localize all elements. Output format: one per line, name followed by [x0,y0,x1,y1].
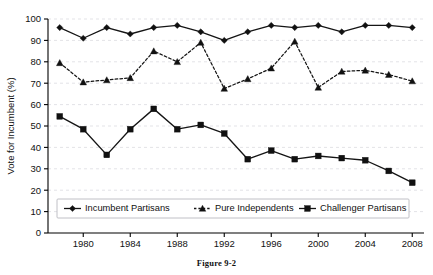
x-tick-label: 2004 [355,238,376,249]
data-point-diamond [174,22,180,28]
x-tick-label: 1980 [73,238,94,249]
x-tick-label: 1996 [261,238,282,249]
data-point-diamond [127,31,133,37]
data-point-diamond [268,22,274,28]
data-point-square [127,126,133,132]
data-point-diamond [292,24,298,30]
y-tick-label: 80 [30,56,41,67]
data-point-square [409,180,415,186]
line-chart: 0102030405060708090100 19801984198819921… [0,0,433,275]
data-point-triangle [221,85,228,91]
data-point-square [174,126,180,132]
legend-item-label: Challenger Partisans [320,203,407,213]
y-tick-label: 50 [30,120,41,131]
data-point-square [339,155,345,161]
x-tick-label: 2000 [308,238,329,249]
y-tick-label: 70 [30,78,41,89]
series-group [56,22,415,185]
legend-item-label: Pure Independents [215,203,294,213]
x-tick-label: 1992 [214,238,235,249]
data-point-triangle [244,76,251,82]
gridlines-group [48,19,424,212]
x-tick-label: 1984 [120,238,141,249]
data-point-diamond [315,22,321,28]
data-point-diamond [245,29,251,35]
y-tick-label: 60 [30,99,41,110]
data-point-diamond [198,29,204,35]
data-point-diamond [221,37,227,43]
data-point-square [57,113,63,119]
data-point-diamond [386,22,392,28]
data-point-diamond [409,24,415,30]
series-line [60,41,413,88]
series-challenger-partisans [57,106,415,186]
y-tick-label: 90 [30,35,41,46]
data-point-square [198,122,204,128]
data-point-diamond [339,29,345,35]
data-point-square [292,156,298,162]
series-line [60,25,413,40]
data-point-triangle [315,84,322,90]
data-point-triangle [291,38,298,44]
y-tick-group: 0102030405060708090100 [25,13,48,238]
y-tick-label: 20 [30,185,41,196]
legend-item-label: Incumbent Partisans [85,203,170,213]
data-point-triangle [56,60,63,66]
y-tick-label: 10 [30,206,41,217]
y-tick-label: 40 [30,142,41,153]
data-point-square [151,106,157,112]
data-point-diamond [151,24,157,30]
legend-swatch-marker [305,206,311,212]
y-tick-label: 30 [30,163,41,174]
data-point-diamond [104,24,110,30]
data-point-square [245,156,251,162]
data-point-square [362,157,368,163]
data-point-square [268,148,274,154]
data-point-diamond [362,22,368,28]
y-tick-label: 0 [36,227,41,238]
y-tick-label: 100 [25,13,41,24]
data-point-square [80,126,86,132]
x-tick-group: 19801984198819921996200020042008 [73,233,423,249]
data-point-diamond [57,24,63,30]
chart-legend[interactable]: Incumbent PartisansPure IndependentsChal… [57,199,409,218]
data-point-triangle [127,75,134,81]
data-point-square [221,131,227,137]
data-point-square [315,153,321,159]
x-tick-label: 2008 [402,238,423,249]
data-point-triangle [150,48,157,54]
y-axis-title: Vote for Incumbent (%) [5,77,16,174]
data-point-square [386,168,392,174]
x-tick-label: 1988 [167,238,188,249]
data-point-square [104,152,110,158]
figure-caption: Figure 9-2 [0,258,433,268]
data-point-triangle [103,77,110,83]
series-line [60,109,413,183]
figure-container: 0102030405060708090100 19801984198819921… [0,0,433,275]
